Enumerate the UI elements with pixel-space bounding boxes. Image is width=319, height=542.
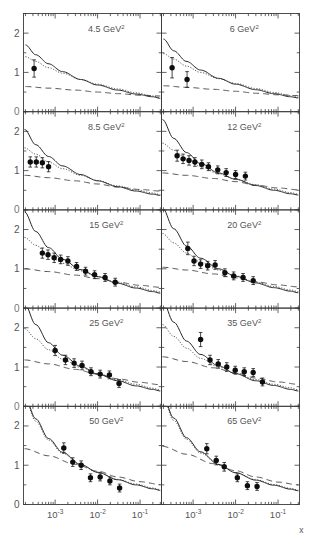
data-point	[223, 170, 228, 175]
y-tick-label-zero: 0	[14, 303, 20, 314]
data-point	[46, 164, 51, 169]
curve-dotted	[25, 148, 161, 195]
data-point	[107, 372, 112, 377]
data-point	[78, 463, 83, 468]
panel-label-exponent: 2	[258, 122, 262, 128]
data-point	[107, 478, 112, 483]
data-point	[242, 369, 247, 374]
y-tick-label: 2	[14, 224, 20, 235]
curve-solid	[163, 300, 299, 391]
data-point	[251, 370, 256, 375]
panel-label-p-8p5: 8.5 GeV2	[88, 122, 125, 132]
data-point	[260, 379, 265, 384]
data-point	[70, 459, 75, 464]
y-tick-label-zero: 0	[14, 204, 20, 215]
data-point	[34, 159, 39, 164]
x-tick-label: 10-3	[47, 508, 64, 520]
panel-label-exponent: 2	[120, 416, 124, 422]
data-point	[83, 268, 88, 273]
y-tick-label-zero: 0	[14, 401, 20, 412]
data-point	[207, 357, 212, 362]
data-point	[88, 369, 93, 374]
data-point	[216, 361, 221, 366]
curve-dotted	[25, 237, 161, 292]
data-point	[251, 278, 256, 283]
data-point	[63, 357, 68, 362]
data-point	[224, 364, 229, 369]
curve-dashed	[163, 446, 299, 484]
panel-label-exponent: 2	[121, 24, 125, 30]
x-tick-label: 10-1	[132, 508, 149, 520]
data-point	[28, 159, 33, 164]
curve-dotted	[25, 329, 161, 390]
curve-solid	[25, 45, 160, 98]
curve-dashed	[163, 357, 299, 384]
x-tick-exponent: -3	[196, 508, 202, 515]
data-point	[52, 348, 57, 353]
panel-label-p-25: 25 GeV2	[89, 318, 124, 328]
y-tick-label: 2	[14, 420, 20, 431]
data-point	[243, 173, 248, 178]
data-point	[198, 261, 203, 266]
data-point	[198, 337, 203, 342]
panel-label-p-35: 35 GeV2	[227, 318, 262, 328]
data-point	[233, 172, 238, 177]
data-point	[240, 275, 245, 280]
data-point	[65, 258, 70, 263]
data-point	[102, 275, 107, 280]
data-point	[233, 367, 238, 372]
panel-label-exponent: 2	[120, 220, 124, 226]
figure-root: 4.5 GeV26 GeV28.5 GeV212 GeV215 GeV220 G…	[0, 0, 319, 542]
structure-function-figure: 4.5 GeV26 GeV28.5 GeV212 GeV215 GeV220 G…	[0, 0, 319, 542]
x-tick-label: 10-2	[227, 508, 244, 520]
panel-label-exponent: 2	[258, 220, 262, 226]
curve-dashed	[163, 173, 299, 190]
data-point	[174, 153, 179, 158]
x-tick-label: 10-2	[89, 508, 106, 520]
data-point	[74, 264, 79, 269]
data-point	[92, 272, 97, 277]
panel-label-p-20: 20 GeV2	[227, 220, 262, 230]
data-point	[222, 464, 227, 469]
data-point	[231, 273, 236, 278]
curve-dashed	[25, 269, 161, 287]
data-point	[214, 458, 219, 463]
curve-dotted	[25, 398, 161, 490]
curve-dashed	[25, 175, 161, 191]
data-point	[61, 445, 66, 450]
data-point	[205, 263, 210, 268]
x-tick-exponent: -3	[58, 508, 64, 515]
x-tick-label: 10-3	[185, 508, 202, 520]
data-point	[51, 255, 56, 260]
data-point	[169, 65, 174, 70]
data-point	[215, 167, 220, 172]
y-tick-label: 1	[14, 165, 20, 176]
data-point	[116, 381, 121, 386]
data-point	[199, 162, 204, 167]
data-point	[191, 258, 196, 263]
x-tick-exponent: -2	[238, 508, 244, 515]
data-point	[245, 483, 250, 488]
y-tick-label-zero: 0	[14, 106, 20, 117]
panel-label-p-15: 15 GeV2	[89, 220, 124, 230]
curve-solid	[163, 39, 298, 98]
curve-dashed	[163, 267, 299, 287]
x-tick-exponent: -1	[280, 508, 286, 515]
panel-label-p-6: 6 GeV2	[230, 24, 260, 34]
data-point	[222, 270, 227, 275]
data-point	[45, 252, 50, 257]
x-tick-exponent: -2	[100, 508, 106, 515]
panel-label-exponent: 2	[258, 318, 262, 324]
panel-label-exponent: 2	[258, 416, 262, 422]
data-point	[186, 158, 191, 163]
data-point	[192, 159, 197, 164]
x-tick-label: 10-1	[270, 508, 287, 520]
panel-label-exponent: 2	[255, 24, 259, 30]
curve-dotted	[163, 325, 299, 390]
data-point	[31, 66, 36, 71]
data-point	[88, 475, 93, 480]
data-point	[40, 250, 45, 255]
data-point	[254, 484, 259, 489]
data-point	[185, 246, 190, 251]
data-point	[180, 156, 185, 161]
